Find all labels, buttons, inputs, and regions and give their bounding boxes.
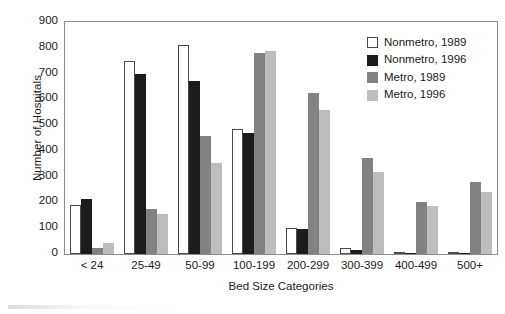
bar-group: [286, 22, 331, 254]
bar: [351, 250, 362, 254]
y-axis-tick-labels: 0100200300400500600700800900: [0, 21, 58, 255]
x-axis-tick-labels: < 2425-4950-99100-199200-299300-399400-4…: [65, 259, 497, 277]
bar: [470, 182, 481, 254]
scan-artifact: [8, 305, 198, 309]
legend-item: Metro, 1989: [367, 70, 466, 85]
bar: [103, 243, 114, 254]
y-axis-tick: 700: [0, 67, 58, 79]
x-axis-title: Bed Size Categories: [64, 280, 498, 292]
chart-legend: Nonmetro, 1989Nonmetro, 1996Metro, 1989M…: [367, 35, 466, 105]
bar: [189, 81, 200, 254]
bar: [157, 214, 168, 254]
bar: [81, 199, 92, 254]
bar: [427, 206, 438, 254]
bar: [254, 53, 265, 254]
legend-swatch-icon: [367, 37, 378, 48]
bar: [297, 229, 308, 254]
legend-label: Metro, 1996: [384, 89, 445, 101]
bar: [265, 51, 276, 254]
x-axis-tick: 200-299: [287, 259, 329, 271]
bar: [70, 205, 81, 254]
x-axis-tick: 100-199: [233, 259, 275, 271]
x-axis-tick: 500+: [457, 259, 483, 271]
y-axis-tick: 400: [0, 144, 58, 156]
x-axis-tick: 50-99: [185, 259, 214, 271]
y-axis-tick: 800: [0, 41, 58, 53]
x-axis-tick: < 24: [81, 259, 104, 271]
legend-swatch-icon: [367, 72, 378, 83]
bar: [211, 163, 222, 254]
x-axis-tick: 25-49: [131, 259, 160, 271]
bar: [286, 228, 297, 254]
y-axis-tick: 200: [0, 196, 58, 208]
bar: [481, 192, 492, 254]
legend-swatch-icon: [367, 55, 378, 66]
bar: [92, 248, 103, 254]
bar: [394, 252, 405, 254]
y-axis-tick: 600: [0, 93, 58, 105]
bar-group: [232, 22, 277, 254]
y-axis-tick: 900: [0, 15, 58, 27]
bar: [308, 93, 319, 254]
y-axis-tick: 100: [0, 221, 58, 233]
legend-label: Nonmetro, 1996: [384, 54, 466, 66]
legend-item: Nonmetro, 1996: [367, 53, 466, 68]
y-axis-tick: 300: [0, 170, 58, 182]
bar-group: [124, 22, 169, 254]
y-axis-tick: 500: [0, 118, 58, 130]
bar-group: [178, 22, 223, 254]
bar: [405, 253, 416, 254]
bar: [178, 45, 189, 254]
legend-label: Metro, 1989: [384, 72, 445, 84]
legend-swatch-icon: [367, 90, 378, 101]
y-axis-tick: 0: [0, 247, 58, 259]
bar: [319, 110, 330, 254]
bar: [416, 202, 427, 254]
x-axis-tick: 300-399: [341, 259, 383, 271]
legend-item: Metro, 1996: [367, 88, 466, 103]
x-axis-tick: 400-499: [395, 259, 437, 271]
bar: [135, 74, 146, 254]
bar: [340, 248, 351, 254]
bar: [200, 136, 211, 254]
bar: [373, 172, 384, 254]
bar: [362, 158, 373, 254]
bar: [146, 209, 157, 254]
bar: [459, 253, 470, 254]
bar: [448, 252, 459, 254]
bar: [243, 133, 254, 254]
legend-label: Nonmetro, 1989: [384, 37, 466, 49]
bar-chart-figure: Number of Hospitals 01002003004005006007…: [0, 0, 505, 314]
bar: [232, 129, 243, 254]
bar: [124, 61, 135, 254]
legend-item: Nonmetro, 1989: [367, 35, 466, 50]
bar-group: [70, 22, 115, 254]
